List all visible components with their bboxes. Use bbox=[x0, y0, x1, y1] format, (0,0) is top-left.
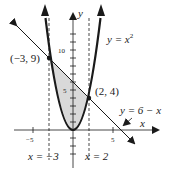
right-bound-label: x = 2 bbox=[84, 150, 109, 162]
shaded-region bbox=[49, 58, 89, 130]
y-tick-5: 5 bbox=[63, 87, 67, 95]
line-label: y = 6 − x bbox=[119, 104, 161, 116]
parabola-label: y = x2 bbox=[106, 32, 134, 45]
point-right-intersection bbox=[87, 96, 91, 100]
left-bound-label: x = −3 bbox=[27, 150, 59, 162]
parabola-left-arrow-icon bbox=[41, 4, 49, 16]
point-left-intersection bbox=[47, 56, 51, 60]
x-axis-label: x bbox=[139, 117, 145, 129]
y-tick-10: 10 bbox=[58, 47, 66, 55]
right-intersection-label: (2, 4) bbox=[95, 85, 119, 98]
x-tick-5: 5 bbox=[111, 136, 115, 144]
parabola-right-arrow-icon bbox=[97, 4, 105, 16]
y-axis-label: y bbox=[77, 7, 83, 19]
x-axis bbox=[14, 127, 158, 133]
x-tick-neg5: −5 bbox=[26, 136, 34, 144]
area-between-curves-figure: y x 10 5 −5 5 y = x2 y = 6 − x (−3, 9) (… bbox=[0, 0, 170, 172]
left-intersection-label: (−3, 9) bbox=[10, 52, 40, 65]
